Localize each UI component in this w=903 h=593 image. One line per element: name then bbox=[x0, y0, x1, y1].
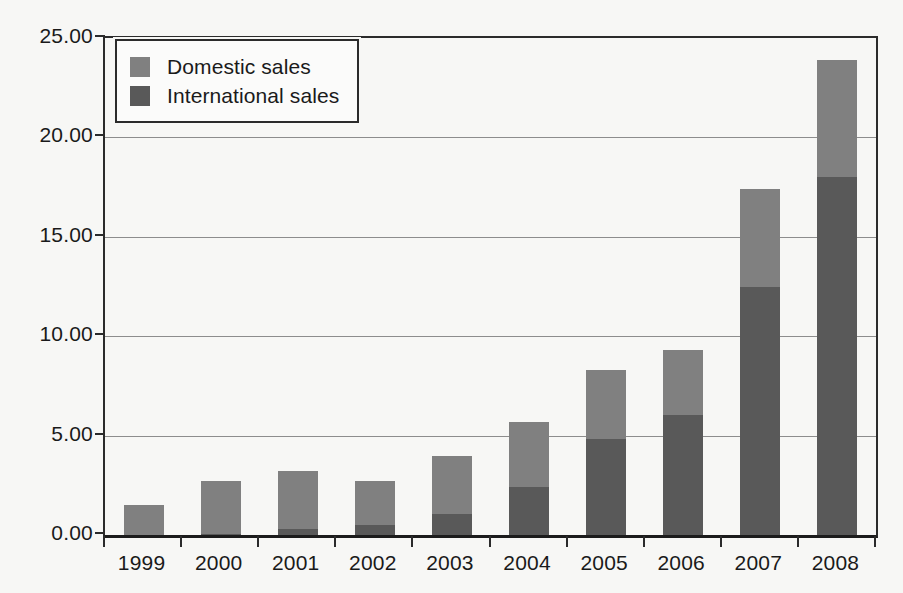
bar-2006[interactable] bbox=[663, 38, 703, 535]
x-axis-tick-mark bbox=[874, 536, 876, 547]
y-axis-tick-label: 25.00 bbox=[5, 24, 93, 48]
bar-segment-international-2007[interactable] bbox=[740, 287, 780, 536]
bar-segment-domestic-2003[interactable] bbox=[432, 456, 472, 515]
legend-label: International sales bbox=[167, 84, 339, 108]
bar-segment-domestic-2008[interactable] bbox=[817, 60, 857, 177]
bar-segment-domestic-2004[interactable] bbox=[509, 422, 549, 488]
x-axis-tick-mark bbox=[797, 536, 799, 547]
x-axis-tick-mark bbox=[334, 536, 336, 547]
bar-segment-international-2008[interactable] bbox=[817, 177, 857, 535]
y-axis-tick-label: 15.00 bbox=[5, 223, 93, 247]
stacked-bar-chart: 0.005.0010.0015.0020.0025.00 19992000200… bbox=[0, 0, 903, 593]
y-axis-tick-label: 0.00 bbox=[5, 521, 93, 545]
bar-2005[interactable] bbox=[586, 38, 626, 535]
x-axis-tick-label-1999: 1999 bbox=[118, 551, 166, 575]
bar-2007[interactable] bbox=[740, 38, 780, 535]
y-axis-tick-label: 20.00 bbox=[5, 123, 93, 147]
legend-swatch-icon bbox=[130, 86, 150, 106]
bar-segment-domestic-2000[interactable] bbox=[201, 481, 241, 534]
x-axis-tick-label-2007: 2007 bbox=[735, 551, 783, 575]
bar-segment-domestic-1999[interactable] bbox=[124, 505, 164, 535]
y-axis-tick-mark bbox=[95, 333, 105, 335]
bar-segment-international-2002[interactable] bbox=[355, 525, 395, 535]
x-axis-tick-mark bbox=[103, 536, 105, 547]
bar-segment-international-2005[interactable] bbox=[586, 439, 626, 535]
y-axis-tick-mark bbox=[95, 532, 105, 534]
bar-segment-international-2004[interactable] bbox=[509, 487, 549, 535]
x-axis-tick-mark bbox=[720, 536, 722, 547]
chart-legend: Domestic salesInternational sales bbox=[115, 39, 359, 123]
legend-item[interactable]: International sales bbox=[130, 81, 339, 110]
x-axis-tick-mark bbox=[180, 536, 182, 547]
y-axis-tick-label: 5.00 bbox=[5, 422, 93, 446]
bar-segment-domestic-2001[interactable] bbox=[278, 471, 318, 529]
x-axis-tick-label-2000: 2000 bbox=[195, 551, 243, 575]
y-axis-tick-mark bbox=[95, 35, 105, 37]
x-axis-tick-label-2006: 2006 bbox=[657, 551, 705, 575]
bar-segment-international-2001[interactable] bbox=[278, 529, 318, 535]
x-axis-tick-label-2001: 2001 bbox=[272, 551, 320, 575]
bar-segment-international-2006[interactable] bbox=[663, 415, 703, 535]
x-axis-tick-label-2004: 2004 bbox=[503, 551, 551, 575]
x-axis-tick-mark bbox=[643, 536, 645, 547]
legend-swatch-icon bbox=[130, 57, 150, 77]
bar-segment-domestic-2006[interactable] bbox=[663, 350, 703, 415]
bar-segment-international-2000[interactable] bbox=[201, 534, 241, 535]
bar-2008[interactable] bbox=[817, 38, 857, 535]
x-axis-tick-label-2003: 2003 bbox=[426, 551, 474, 575]
bar-segment-domestic-2002[interactable] bbox=[355, 481, 395, 525]
x-axis-tick-mark bbox=[257, 536, 259, 547]
y-axis-tick-mark bbox=[95, 134, 105, 136]
bar-2002[interactable] bbox=[355, 38, 395, 535]
y-axis-tick-mark bbox=[95, 234, 105, 236]
y-axis-tick-label: 10.00 bbox=[5, 322, 93, 346]
x-axis-tick-mark bbox=[489, 536, 491, 547]
bar-segment-domestic-2007[interactable] bbox=[740, 189, 780, 286]
bar-2004[interactable] bbox=[509, 38, 549, 535]
legend-label: Domestic sales bbox=[167, 55, 311, 79]
bar-segment-international-2003[interactable] bbox=[432, 514, 472, 535]
x-axis-tick-label-2002: 2002 bbox=[349, 551, 397, 575]
x-axis-tick-label-2005: 2005 bbox=[580, 551, 628, 575]
y-axis-tick-mark bbox=[95, 433, 105, 435]
legend-item[interactable]: Domestic sales bbox=[130, 52, 339, 81]
x-axis-tick-label-2008: 2008 bbox=[812, 551, 860, 575]
x-axis-tick-mark bbox=[566, 536, 568, 547]
y-axis: 0.005.0010.0015.0020.0025.00 bbox=[0, 0, 93, 593]
bar-2003[interactable] bbox=[432, 38, 472, 535]
x-axis-tick-mark bbox=[411, 536, 413, 547]
bar-segment-domestic-2005[interactable] bbox=[586, 370, 626, 439]
